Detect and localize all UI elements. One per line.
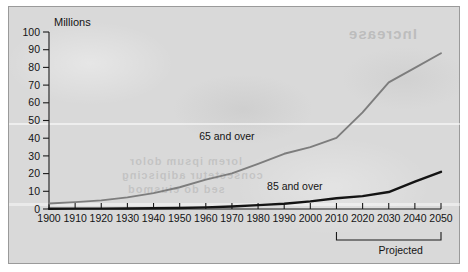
y-axis-tick-labels: 0102030405060708090100 xyxy=(22,26,40,215)
x-tick-label: 1960 xyxy=(194,212,218,224)
x-tick-label: 2020 xyxy=(351,212,375,224)
projected-bracket-path xyxy=(336,232,441,240)
projected-bracket-label: Projected xyxy=(379,244,424,256)
x-tick-label: 2050 xyxy=(429,212,453,224)
series-label-85-and-over: 85 and over xyxy=(267,180,323,192)
x-tick-label: 2030 xyxy=(377,212,401,224)
y-tick-label: 90 xyxy=(28,43,40,55)
x-tick-label: 1920 xyxy=(90,212,114,224)
y-tick-label: 100 xyxy=(22,26,40,38)
y-tick-label: 30 xyxy=(28,150,40,162)
y-tick-label: 70 xyxy=(28,79,40,91)
y-tick-label: 10 xyxy=(28,185,40,197)
x-tick-label: 2040 xyxy=(403,212,427,224)
x-tick-label: 1990 xyxy=(273,212,297,224)
figure-container: Increase lorem ipsum dolor consectetur a… xyxy=(0,0,468,272)
y-tick-label: 40 xyxy=(28,132,40,144)
y-axis-ticks xyxy=(43,32,49,209)
x-tick-label: 1980 xyxy=(246,212,270,224)
y-tick-label: 50 xyxy=(28,114,40,126)
x-tick-label: 1940 xyxy=(142,212,166,224)
projected-bracket: Projected xyxy=(336,232,441,256)
x-tick-label: 1970 xyxy=(220,212,244,224)
series-label-65-and-over: 65 and over xyxy=(199,130,255,142)
y-axis: 0102030405060708090100 xyxy=(22,26,49,215)
x-tick-label: 2010 xyxy=(325,212,349,224)
x-tick-label: 2000 xyxy=(299,212,323,224)
y-tick-label: 80 xyxy=(28,61,40,73)
y-axis-title: Millions xyxy=(54,16,91,28)
x-tick-label: 1910 xyxy=(63,212,87,224)
x-tick-label: 1900 xyxy=(37,212,61,224)
y-tick-label: 60 xyxy=(28,96,40,108)
line-chart: 0102030405060708090100 Millions 19001910… xyxy=(0,0,468,272)
series-annotations: 65 and over 85 and over xyxy=(199,130,323,192)
x-axis-tick-labels: 1900191019201930194019501960197019801990… xyxy=(37,212,453,224)
series-line-85-and-over xyxy=(49,172,441,209)
y-tick-label: 20 xyxy=(28,167,40,179)
x-tick-label: 1950 xyxy=(168,212,192,224)
series-line-65-and-over xyxy=(49,53,441,203)
x-tick-label: 1930 xyxy=(116,212,140,224)
